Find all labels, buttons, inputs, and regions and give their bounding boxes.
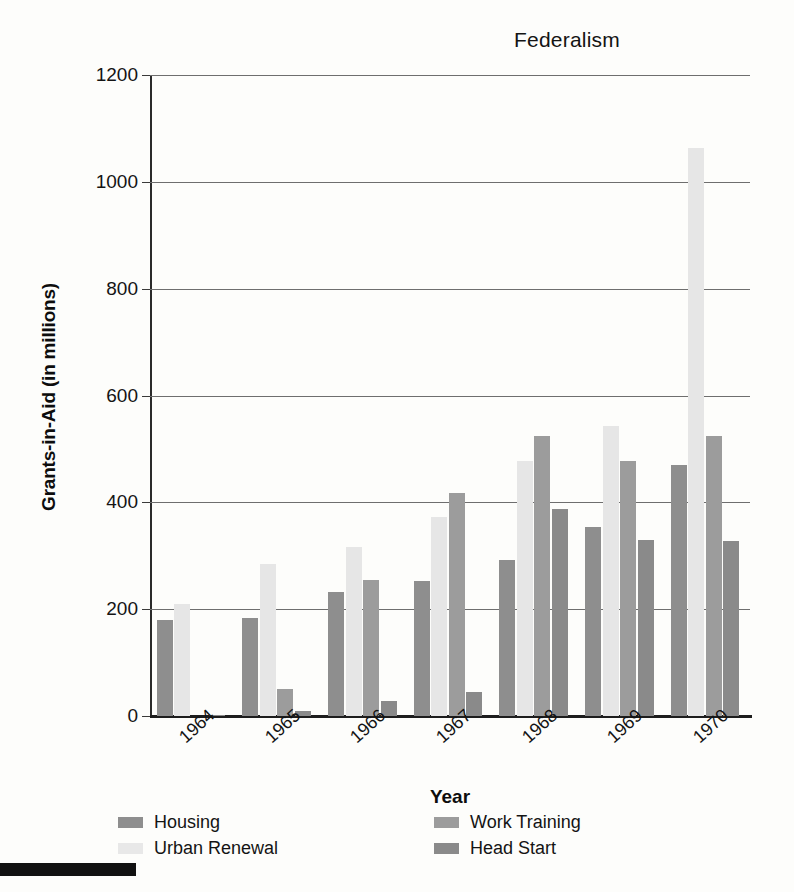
legend-label-urban-renewal: Urban Renewal xyxy=(154,838,278,859)
bar xyxy=(157,620,173,716)
bar-group xyxy=(671,75,740,716)
y-tick-label: 600 xyxy=(106,385,138,407)
y-tick-label: 1000 xyxy=(96,171,138,193)
chart-legend: Housing Urban Renewal Work Training Head… xyxy=(118,812,678,868)
y-tick-label: 1200 xyxy=(96,64,138,86)
bar xyxy=(328,592,344,716)
bar xyxy=(723,541,739,716)
legend-item-urban-renewal[interactable]: Urban Renewal xyxy=(118,838,278,859)
bar xyxy=(638,540,654,716)
legend-item-housing[interactable]: Housing xyxy=(118,812,220,833)
bar xyxy=(242,618,258,716)
legend-swatch-housing-icon xyxy=(118,817,143,828)
legend-item-work-training[interactable]: Work Training xyxy=(434,812,581,833)
bar xyxy=(346,547,362,716)
chart-figure: Federalism Grants-in-Aid (in millions) 0… xyxy=(0,0,794,892)
chart-title: Federalism xyxy=(0,28,794,52)
bar xyxy=(603,426,619,716)
bar-group xyxy=(157,75,226,716)
bar-group xyxy=(414,75,483,716)
footer-rule xyxy=(0,863,136,876)
bar xyxy=(363,580,379,716)
bar-groups xyxy=(150,75,750,716)
bar-group xyxy=(328,75,397,716)
bar xyxy=(585,527,601,716)
y-tick-label: 0 xyxy=(127,705,138,727)
bar xyxy=(620,461,636,716)
legend-swatch-work-training-icon xyxy=(434,817,459,828)
y-tick-mark xyxy=(142,502,150,503)
y-tick-mark xyxy=(142,289,150,290)
bar xyxy=(260,564,276,716)
legend-item-head-start[interactable]: Head Start xyxy=(434,838,556,859)
y-tick-label: 800 xyxy=(106,278,138,300)
legend-label-housing: Housing xyxy=(154,812,220,833)
plot-area xyxy=(150,75,750,716)
legend-swatch-urban-renewal-icon xyxy=(118,843,143,854)
legend-label-work-training: Work Training xyxy=(470,812,581,833)
bar-group xyxy=(499,75,568,716)
bar xyxy=(517,461,533,716)
y-axis-title: Grants-in-Aid (in millions) xyxy=(38,162,60,632)
y-tick-mark xyxy=(142,396,150,397)
y-tick-mark xyxy=(142,75,150,76)
bar xyxy=(552,509,568,716)
bar xyxy=(449,493,465,716)
legend-label-head-start: Head Start xyxy=(470,838,556,859)
bar xyxy=(688,148,704,716)
y-tick-mark xyxy=(142,716,150,717)
legend-swatch-head-start-icon xyxy=(434,843,459,854)
bar xyxy=(414,581,430,716)
bar xyxy=(431,517,447,716)
x-axis-title: Year xyxy=(150,786,750,808)
bar xyxy=(534,436,550,716)
y-axis-tick-labels: 020040060080010001200 xyxy=(60,75,138,716)
y-tick-label: 200 xyxy=(106,598,138,620)
y-tick-mark xyxy=(142,609,150,610)
bar xyxy=(499,560,515,717)
bar xyxy=(174,604,190,716)
bar-group xyxy=(242,75,311,716)
y-tick-mark xyxy=(142,182,150,183)
bar-group xyxy=(585,75,654,716)
bar xyxy=(706,436,722,716)
x-axis-tick-labels: 1964196519661967196819691970 xyxy=(150,716,750,786)
y-tick-label: 400 xyxy=(106,491,138,513)
bar xyxy=(671,465,687,716)
